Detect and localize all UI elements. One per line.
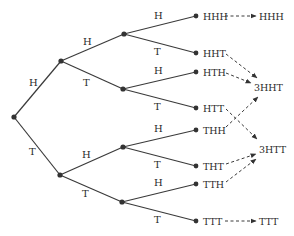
branch-label: T <box>82 188 89 199</box>
node-h <box>58 58 63 63</box>
node-t <box>57 172 62 177</box>
node-hh <box>121 31 126 36</box>
outcome-label: TTH <box>203 179 224 190</box>
tree-nodes <box>11 14 198 224</box>
branch-label: H <box>83 36 92 47</box>
branch-label: T <box>154 214 161 225</box>
group-label-3hht: 3HHT <box>254 82 284 93</box>
branch-label: H <box>154 177 163 188</box>
group-labels: HHH 3HHT 3HTT TTT <box>254 11 287 227</box>
node-tt <box>119 199 124 204</box>
branch-label: H <box>154 65 163 76</box>
branch-labels: H T H T H T H T H T H T H T <box>29 10 163 225</box>
branch-label: H <box>82 149 91 160</box>
outcome-label: HHT <box>203 48 227 59</box>
group-label-ttt: TTT <box>259 216 279 227</box>
branch-label: H <box>154 10 163 21</box>
outcome-label: HHH <box>203 11 228 22</box>
node-th <box>120 144 125 149</box>
branch-label: H <box>29 77 38 88</box>
outcome-label: TTT <box>203 216 223 227</box>
branch-label: T <box>83 77 90 88</box>
outcome-label: THT <box>203 161 225 172</box>
branch-label: T <box>154 159 161 170</box>
root-node <box>11 114 16 119</box>
branch-label: T <box>154 46 161 57</box>
tree-edges <box>14 16 196 221</box>
group-label-hhh: HHH <box>259 11 284 22</box>
probability-tree-diagram: H T H T H T H T H T H T H T HHH HHT HTH … <box>0 0 294 236</box>
group-label-3htt: 3HTT <box>259 144 287 155</box>
branch-label: T <box>154 101 161 112</box>
outcome-label: HTT <box>203 103 225 114</box>
outcome-label: THH <box>203 125 226 136</box>
grouping-arrows <box>225 16 258 221</box>
branch-label: T <box>29 146 36 157</box>
node-ht <box>120 86 125 91</box>
outcome-labels: HHH HHT HTH HTT THH THT TTH TTT <box>203 11 228 227</box>
outcome-label: HTH <box>203 67 226 78</box>
branch-label: H <box>154 123 163 134</box>
